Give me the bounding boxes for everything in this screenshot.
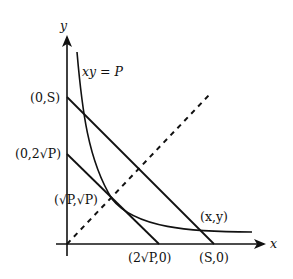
point-label-S-0: (S,0) bbox=[199, 252, 229, 265]
y-axis-label: y bbox=[60, 20, 67, 33]
point-label-x-y: (x,y) bbox=[200, 211, 228, 224]
curve-label: xy = P bbox=[82, 66, 123, 79]
x-axis-label: x bbox=[270, 238, 277, 251]
point-label-tangent: (√P,√P) bbox=[54, 194, 98, 207]
point-label-0-2rootP: (0,2√P) bbox=[15, 148, 61, 161]
point-label-2rootP-0: (2√P,0) bbox=[128, 252, 171, 265]
point-label-0-S: (0,S) bbox=[30, 92, 60, 105]
diagram-canvas bbox=[0, 0, 293, 279]
